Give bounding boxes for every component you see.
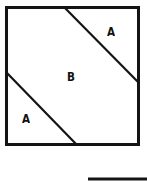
region-label-b-middle: B [67,70,75,83]
geometry-diagram [0,0,147,183]
region-label-a-bottom-left: A [22,112,30,125]
region-label-a-top-right: A [107,25,115,38]
figure-container: A B A [0,0,147,183]
